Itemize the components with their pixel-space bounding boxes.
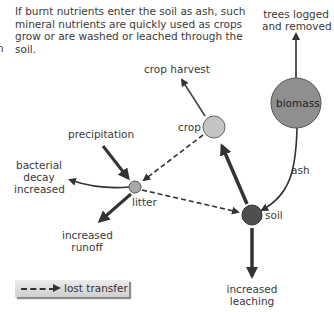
arrow-crop-to-harvest — [182, 80, 205, 116]
arrow-litter-to-runoff — [100, 194, 131, 221]
legend-label: lost transfer — [64, 280, 128, 297]
label-line: runoff — [62, 241, 112, 253]
label-bacterial-decay: bacterial decay increased — [14, 159, 64, 195]
label-increased-runoff: increased runoff — [62, 229, 112, 253]
dashed-line-icon — [21, 288, 55, 290]
arrow-crop-to-litter — [144, 135, 203, 180]
intro-text: If burnt nutrients enter the soil as ash… — [15, 5, 255, 55]
arrowhead-icon — [53, 284, 61, 292]
arrow-precip-to-litter — [103, 146, 128, 178]
label-soil: soil — [265, 209, 283, 221]
label-line: leaching — [226, 295, 278, 307]
label-line: increased — [62, 229, 112, 241]
node-litter — [129, 181, 141, 193]
legend-lost-transfer: lost transfer — [15, 280, 129, 297]
label-trees-logged: trees logged and removed — [262, 8, 330, 32]
node-soil — [242, 205, 262, 225]
label-crop-harvest: crop harvest — [144, 63, 210, 75]
cut-off-text-fragment: n — [0, 42, 4, 54]
label-crop: crop — [178, 121, 201, 133]
label-line: decay — [14, 171, 64, 183]
arrow-soil-to-crop — [222, 146, 247, 204]
label-line: bacterial — [14, 159, 64, 171]
label-line: increased — [14, 183, 64, 195]
nutrient-cycle-diagram: n If burnt nutrients enter the soil as a… — [0, 0, 334, 312]
arrow-litter-to-decay — [70, 180, 129, 188]
label-precipitation: precipitation — [68, 128, 134, 140]
label-biomass: biomass — [276, 97, 320, 109]
label-line: and removed — [262, 20, 330, 32]
label-increased-leaching: increased leaching — [226, 283, 278, 307]
node-crop — [203, 116, 225, 138]
label-line: trees logged — [262, 8, 330, 20]
label-litter: litter — [132, 196, 157, 208]
label-ash: ash — [291, 164, 310, 176]
label-line: increased — [226, 283, 278, 295]
